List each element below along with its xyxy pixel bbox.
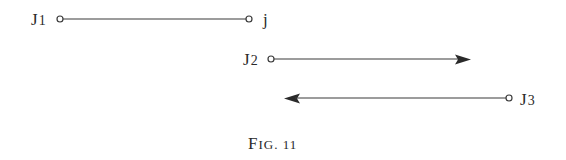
label-j: j <box>262 10 268 29</box>
figure-caption: FIG. 11 <box>248 134 297 153</box>
open-circle-j3 <box>506 95 512 101</box>
label-j2: J2 <box>243 50 258 69</box>
label-j3: J3 <box>520 90 535 109</box>
open-circle-j1 <box>57 16 63 22</box>
open-circle-j <box>246 16 252 22</box>
figure-11-diagram: J1 j J2 J3 FIG. 11 <box>0 0 566 160</box>
open-circle-j2 <box>268 56 274 62</box>
label-j1: J1 <box>31 10 46 29</box>
